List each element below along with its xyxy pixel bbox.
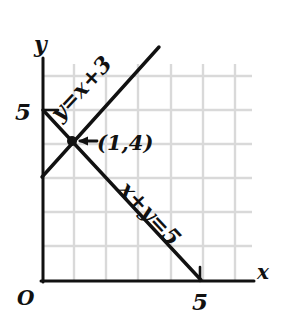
x-tick-label-5: 5: [192, 288, 208, 315]
y-tick-label-5: 5: [15, 98, 31, 125]
x-axis-label: x: [256, 260, 270, 284]
y-axis-label: y: [33, 31, 49, 57]
origin-label: O: [17, 286, 35, 310]
graph-canvas: y x O 5 5 y=x+3 x+y=5 (1,4): [0, 0, 288, 328]
intersection-point-label: (1,4): [97, 130, 153, 155]
coordinate-graph-figure: y x O 5 5 y=x+3 x+y=5 (1,4): [0, 0, 288, 328]
intersection-point-dot: [67, 136, 77, 146]
